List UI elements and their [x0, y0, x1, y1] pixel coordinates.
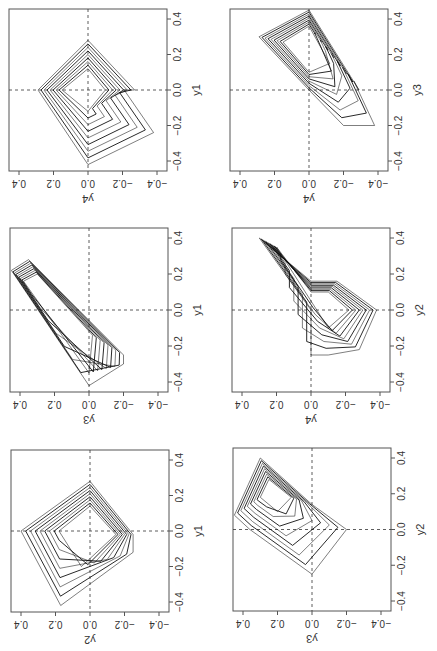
y-tick-label: −0.4 [174, 592, 185, 612]
panel-row1-col2: 0.40.20.0−0.2−0.4y4−0.4−0.20.00.20.4y3 [230, 9, 423, 205]
x-axis-title: y2 [84, 634, 96, 646]
panel-row3-col2: 0.40.20.0−0.2−0.4y3−0.4−0.20.00.20.4y2 [233, 448, 426, 645]
x-axis-title: y4 [82, 193, 94, 205]
x-axis-title: y3 [83, 414, 95, 426]
x-axis-title: y3 [306, 633, 318, 645]
y-tick-label: 0.4 [172, 12, 183, 26]
y-tick-label: −0.2 [174, 556, 185, 576]
x-tick-label: 0.2 [270, 618, 284, 629]
trajectory-line [260, 479, 291, 511]
trajectory-line [259, 10, 375, 125]
panel-row2-col1: 0.40.20.0−0.2−0.4y3−0.4−0.20.00.20.4y1 [10, 228, 203, 426]
x-axis-title: y4 [303, 193, 315, 205]
y-tick-label: 0.2 [172, 47, 183, 61]
x-tick-label: 0.0 [81, 178, 95, 189]
trajectory-line [56, 62, 113, 125]
x-tick-label: −0.4 [148, 399, 168, 410]
y-axis-title: y2 [413, 304, 425, 316]
y-tick-label: −0.4 [172, 151, 183, 171]
x-axis-title: y4 [305, 414, 317, 426]
x-tick-label: 0.4 [235, 399, 249, 410]
x-tick-label: 0.4 [12, 178, 26, 189]
y-tick-label: 0.0 [172, 83, 183, 97]
y-tick-label: −0.4 [395, 372, 406, 392]
y-tick-label: 0.2 [173, 267, 184, 281]
y-tick-label: 0.0 [396, 522, 407, 536]
trajectory-line [59, 506, 116, 566]
pairs-plot-figure: 0.40.20.0−0.2−0.4y4−0.4−0.20.00.20.4y10.… [0, 0, 437, 651]
x-tick-label: 0.4 [14, 619, 28, 630]
y-tick-label: 0.0 [174, 524, 185, 538]
y-tick-label: −0.2 [395, 336, 406, 356]
y-tick-label: 0.0 [395, 303, 406, 317]
x-tick-label: −0.4 [368, 178, 388, 189]
y-tick-label: −0.2 [393, 115, 404, 135]
x-tick-label: 0.2 [46, 178, 60, 189]
y-tick-label: 0.0 [393, 83, 404, 97]
trajectory-line [41, 44, 145, 158]
x-tick-label: −0.2 [333, 178, 353, 189]
x-tick-label: 0.0 [82, 399, 96, 410]
x-tick-label: −0.2 [113, 399, 133, 410]
trajectory-line [40, 494, 125, 569]
y-tick-label: 0.4 [173, 231, 184, 245]
y-tick-label: −0.4 [396, 591, 407, 611]
y-tick-label: 0.2 [396, 486, 407, 500]
y-tick-label: 0.2 [174, 488, 185, 502]
y-tick-label: 0.4 [174, 453, 185, 467]
x-tick-label: −0.2 [112, 178, 132, 189]
trajectory-line [19, 269, 104, 370]
x-tick-label: −0.2 [335, 399, 355, 410]
x-tick-label: 0.0 [302, 178, 316, 189]
x-tick-label: −0.4 [370, 399, 390, 410]
y-axis-title: y1 [190, 84, 202, 96]
x-tick-label: 0.2 [267, 178, 281, 189]
y-tick-label: 0.2 [393, 47, 404, 61]
x-tick-label: 0.2 [47, 399, 61, 410]
panel-row2-col2: 0.40.20.0−0.2−0.4y4−0.4−0.20.00.20.4y2 [232, 228, 425, 426]
y-tick-label: 0.4 [393, 12, 404, 26]
x-tick-label: −0.4 [149, 619, 169, 630]
panel-row3-col1: 0.40.20.0−0.2−0.4y2−0.4−0.20.00.20.4y1 [11, 450, 204, 646]
y-axis-title: y2 [414, 524, 426, 536]
y-tick-label: 0.4 [396, 451, 407, 465]
y-tick-label: −0.2 [172, 115, 183, 135]
panel-row1-col1: 0.40.20.0−0.2−0.4y4−0.4−0.20.00.20.4y1 [9, 9, 202, 205]
x-tick-label: −0.4 [371, 618, 391, 629]
y-tick-label: −0.4 [393, 151, 404, 171]
trajectory-line [17, 267, 108, 369]
x-tick-label: −0.4 [147, 178, 167, 189]
x-tick-label: 0.0 [305, 618, 319, 629]
y-tick-label: 0.4 [395, 231, 406, 245]
y-tick-label: 0.0 [173, 303, 184, 317]
x-tick-label: 0.2 [48, 619, 62, 630]
x-tick-label: 0.4 [233, 178, 247, 189]
x-tick-label: −0.2 [336, 618, 356, 629]
trajectory-line [16, 265, 112, 367]
x-tick-label: 0.4 [236, 618, 250, 629]
x-tick-label: 0.0 [304, 399, 318, 410]
x-tick-label: 0.0 [83, 619, 97, 630]
trajectory-line [31, 488, 129, 587]
x-tick-label: 0.2 [269, 399, 283, 410]
y-axis-title: y1 [192, 525, 204, 537]
y-tick-label: 0.2 [395, 267, 406, 281]
y-axis-title: y3 [411, 84, 423, 96]
x-tick-label: 0.4 [13, 399, 27, 410]
y-tick-label: −0.2 [396, 555, 407, 575]
x-tick-label: −0.2 [114, 619, 134, 630]
y-axis-title: y1 [191, 304, 203, 316]
y-tick-label: −0.4 [173, 372, 184, 392]
y-tick-label: −0.2 [173, 336, 184, 356]
